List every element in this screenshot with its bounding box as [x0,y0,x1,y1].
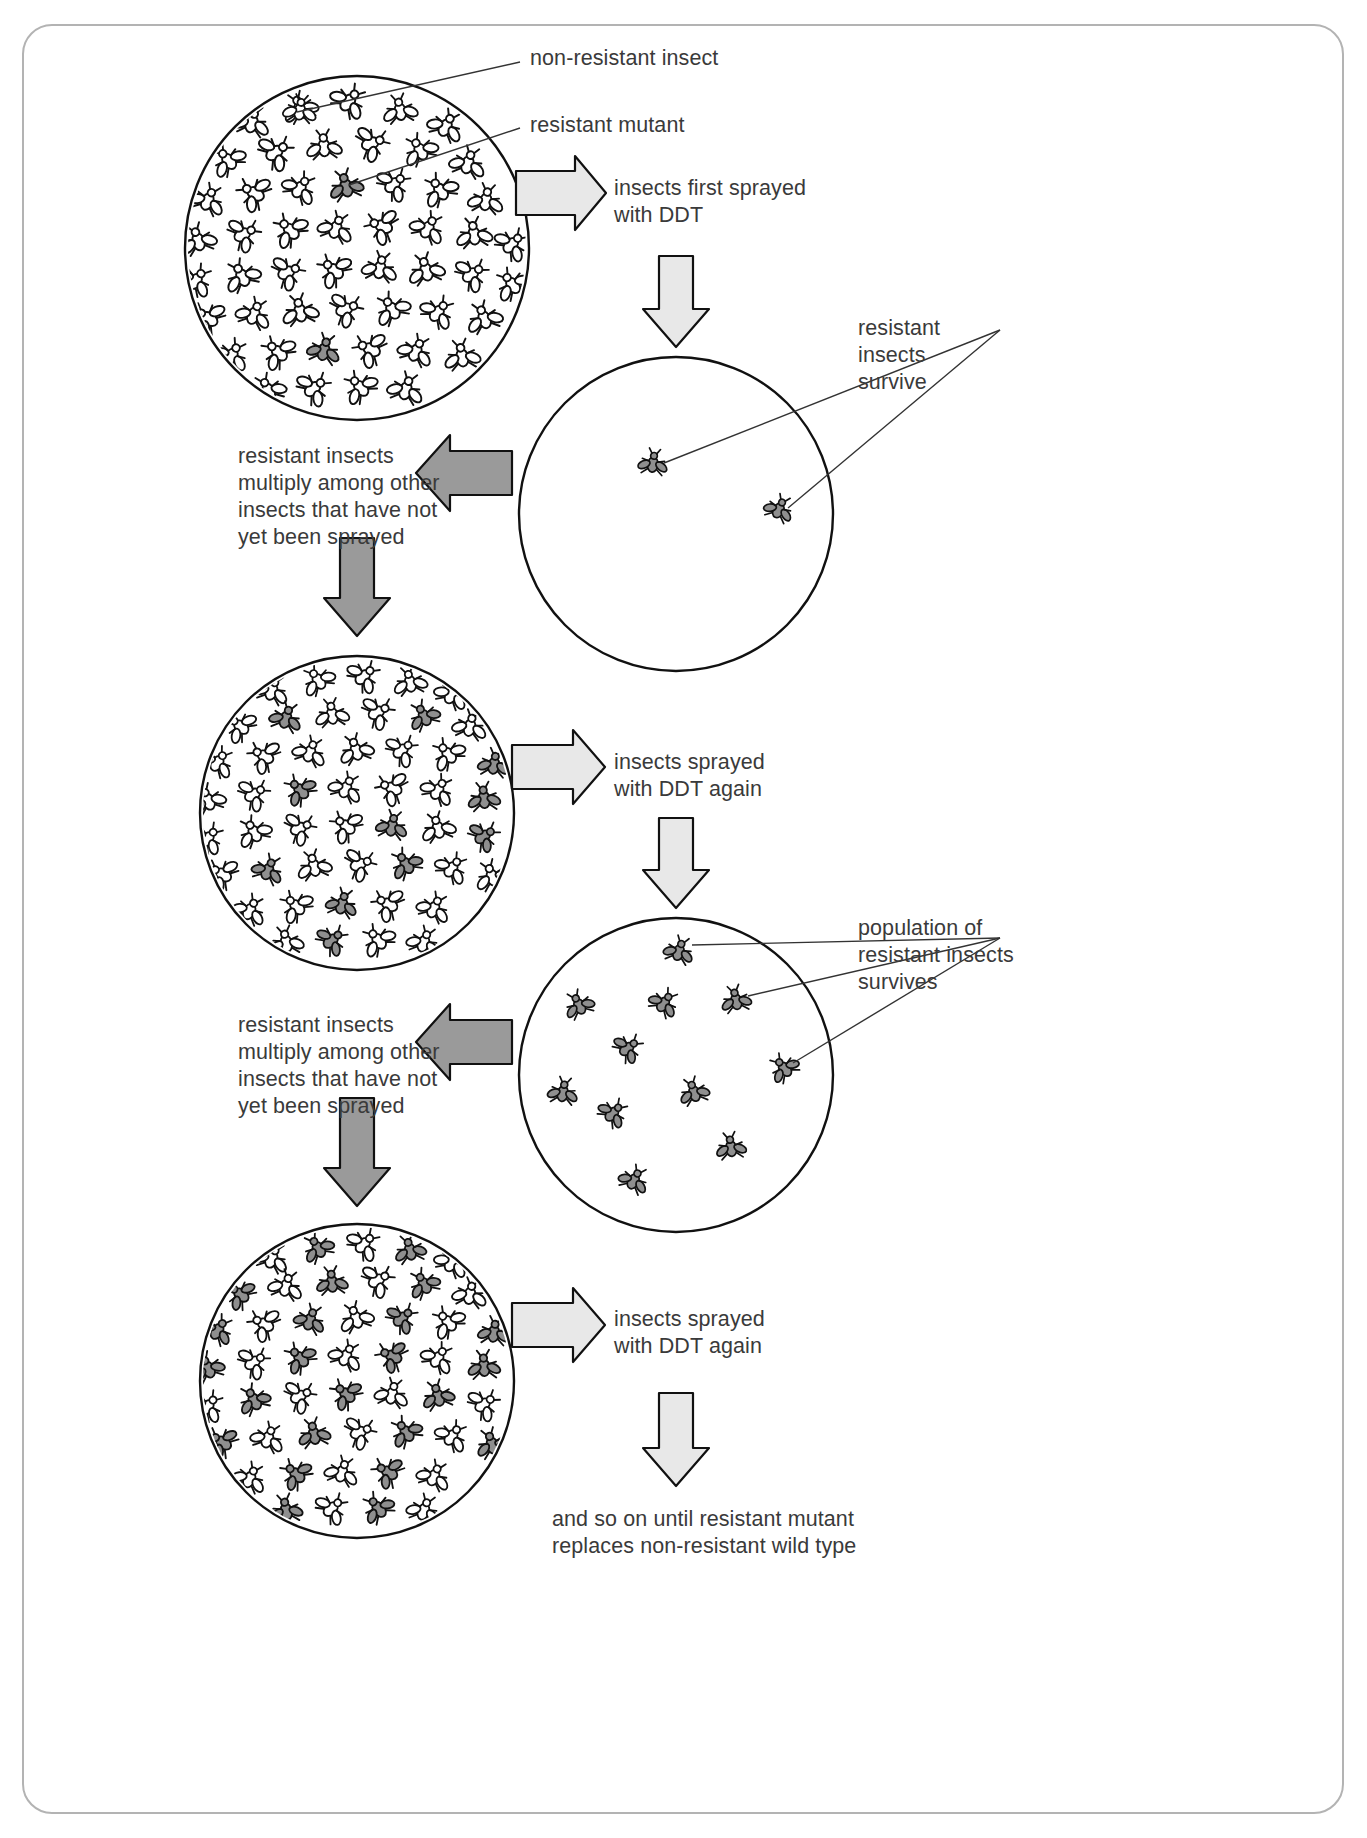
label-first-spray: insects first sprayed with DDT [614,175,806,229]
label-spray-again-2: insects sprayed with DDT again [614,1306,765,1360]
label-resistant-survive: resistant insects survive [858,315,940,396]
label-population-survives: population of resistant insects survives [858,915,1014,996]
label-conclusion: and so on until resistant mutant replace… [552,1506,856,1560]
label-spray-again-1: insects sprayed with DDT again [614,749,765,803]
label-non-resistant-insect: non-resistant insect [530,45,718,72]
label-resistant-mutant: resistant mutant [530,112,685,139]
label-multiply-2: resistant insects multiply among other i… [238,1012,440,1120]
diagram-canvas: non-resistant insect resistant mutant in… [0,0,1367,1838]
label-multiply-1: resistant insects multiply among other i… [238,443,440,551]
